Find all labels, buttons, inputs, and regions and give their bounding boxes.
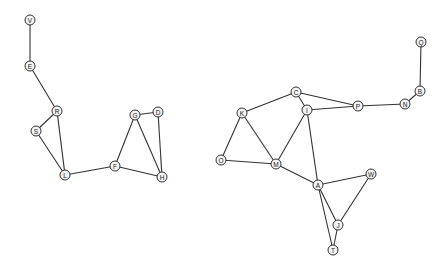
node-label: N <box>403 101 408 108</box>
node-a: A <box>313 180 323 190</box>
node-h: H <box>157 172 167 182</box>
node-label: M <box>273 161 278 168</box>
node-j: J <box>333 220 343 230</box>
edge-k-m <box>242 113 276 164</box>
edge-e-r <box>30 66 57 111</box>
edge-g-h <box>135 115 162 177</box>
node-t: T <box>328 245 338 255</box>
edge-p-n <box>358 104 405 106</box>
node-label: Q <box>418 39 423 47</box>
node-label: R <box>55 108 60 115</box>
node-label: V <box>28 17 33 24</box>
edge-k-c <box>242 92 296 113</box>
edge-c-p <box>296 92 358 106</box>
node-c: C <box>291 87 301 97</box>
edge-b-q <box>420 42 421 91</box>
edge-k-o <box>221 113 242 160</box>
node-n: N <box>400 99 410 109</box>
node-label: O <box>218 157 223 164</box>
node-r: R <box>52 106 62 116</box>
edge-j-w <box>338 174 371 225</box>
node-label: F <box>113 163 117 170</box>
node-label: C <box>294 89 299 96</box>
node-label: W <box>368 171 375 178</box>
node-q: Q <box>416 37 426 47</box>
node-m: M <box>271 159 281 169</box>
edge-m-a <box>276 164 318 185</box>
node-e: E <box>25 61 35 71</box>
node-l: L <box>60 170 70 180</box>
node-label: S <box>34 128 39 135</box>
node-b: B <box>415 86 425 96</box>
node-label: J <box>336 222 339 229</box>
graph-canvas: VERSLFGDHKCIPNBQOMAWJT <box>0 0 448 270</box>
node-f: F <box>110 161 120 171</box>
node-layer: VERSLFGDHKCIPNBQOMAWJT <box>25 15 426 255</box>
edge-a-w <box>318 174 371 185</box>
node-i: I <box>302 105 312 115</box>
node-label: I <box>306 107 308 114</box>
node-s: S <box>31 126 41 136</box>
edge-i-m <box>276 110 307 164</box>
edge-l-f <box>65 166 115 175</box>
node-label: A <box>316 182 321 189</box>
node-g: G <box>130 110 140 120</box>
node-label: L <box>63 172 67 179</box>
node-d: D <box>153 107 163 117</box>
node-label: D <box>156 109 161 116</box>
edge-d-h <box>158 112 162 177</box>
edge-a-j <box>318 185 338 225</box>
node-k: K <box>237 108 247 118</box>
node-label: K <box>240 110 245 117</box>
edge-i-p <box>307 106 358 110</box>
edge-f-g <box>115 115 135 166</box>
node-v: V <box>25 15 35 25</box>
node-o: O <box>216 155 226 165</box>
node-p: P <box>353 101 363 111</box>
node-label: G <box>132 112 137 119</box>
node-label: E <box>28 63 33 70</box>
edge-i-a <box>307 110 318 185</box>
node-label: T <box>331 247 335 254</box>
edge-o-m <box>221 160 276 164</box>
edge-f-h <box>115 166 162 177</box>
edge-a-t <box>318 185 333 250</box>
node-label: P <box>356 103 360 110</box>
node-label: H <box>160 174 165 181</box>
node-w: W <box>366 169 376 179</box>
node-label: B <box>418 88 422 95</box>
edge-layer <box>30 20 421 250</box>
